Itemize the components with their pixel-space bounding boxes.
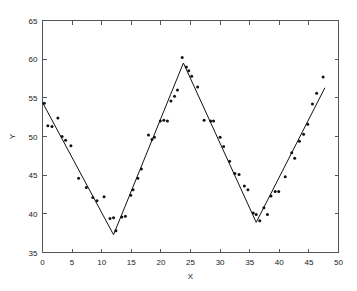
data-point — [238, 173, 241, 176]
data-point — [129, 194, 132, 197]
data-point — [293, 157, 296, 160]
data-point — [302, 133, 305, 136]
data-point — [228, 160, 231, 163]
x-tick-label: 30 — [216, 258, 225, 267]
data-point — [266, 213, 269, 216]
data-point — [136, 177, 139, 180]
x-tick-label: 20 — [156, 258, 165, 267]
data-point — [222, 145, 225, 148]
data-point — [108, 217, 111, 220]
data-point — [212, 120, 215, 123]
data-point — [112, 216, 115, 219]
data-point — [258, 219, 261, 222]
data-point — [262, 206, 265, 209]
data-point — [114, 229, 117, 232]
data-point — [315, 92, 318, 95]
data-point — [173, 95, 176, 98]
data-point — [243, 184, 246, 187]
fit-line — [43, 63, 325, 235]
y-tick-label: 60 — [29, 55, 38, 64]
data-point — [85, 186, 88, 189]
data-point — [50, 125, 53, 128]
data-point — [77, 177, 80, 180]
y-axis-ticks — [43, 21, 339, 253]
data-point — [185, 65, 188, 68]
data-point — [290, 151, 293, 154]
data-point — [147, 133, 150, 136]
data-point — [233, 172, 236, 175]
data-point — [95, 199, 98, 202]
data-point — [140, 167, 143, 170]
data-point — [311, 103, 314, 106]
scatter-plot: 05101520253035404550 35404550556065 X Y — [0, 0, 357, 291]
y-axis-tick-labels: 35404550556065 — [29, 17, 38, 258]
data-point — [151, 138, 154, 141]
data-point — [203, 119, 206, 122]
x-tick-label: 35 — [245, 258, 254, 267]
y-tick-label: 40 — [29, 210, 38, 219]
x-tick-label: 25 — [186, 258, 195, 267]
data-point — [56, 116, 59, 119]
y-tick-label: 45 — [29, 171, 38, 180]
data-point — [322, 75, 325, 78]
data-point — [277, 190, 280, 193]
x-tick-label: 40 — [275, 258, 284, 267]
data-point — [166, 120, 169, 123]
data-point — [69, 144, 72, 147]
data-point — [153, 136, 156, 139]
data-point — [298, 140, 301, 143]
data-point — [252, 212, 255, 215]
data-point — [162, 119, 165, 122]
x-tick-label: 5 — [70, 258, 75, 267]
y-tick-label: 35 — [29, 249, 38, 258]
data-point — [46, 124, 49, 127]
data-point — [176, 89, 179, 92]
data-point — [196, 86, 199, 89]
data-point — [169, 99, 172, 102]
data-point — [124, 215, 127, 218]
data-point — [103, 195, 106, 198]
chart-figure: 05101520253035404550 35404550556065 X Y — [0, 0, 357, 291]
data-points — [43, 56, 325, 232]
data-point — [284, 175, 287, 178]
data-point — [255, 213, 258, 216]
data-point — [91, 196, 94, 199]
data-point — [64, 139, 67, 142]
data-point — [219, 136, 222, 139]
x-axis-ticks — [43, 21, 339, 253]
data-point — [159, 120, 162, 123]
x-tick-label: 45 — [304, 258, 313, 267]
y-tick-label: 65 — [29, 17, 38, 26]
y-axis-title: Y — [8, 133, 17, 139]
data-point — [132, 188, 135, 191]
data-point — [246, 188, 249, 191]
y-tick-label: 50 — [29, 133, 38, 142]
data-point — [270, 195, 273, 198]
plot-frame — [43, 21, 339, 253]
y-tick-label: 55 — [29, 94, 38, 103]
data-point — [187, 69, 190, 72]
x-tick-label: 50 — [334, 258, 343, 267]
x-axis-tick-labels: 05101520253035404550 — [40, 258, 343, 267]
data-point — [209, 120, 212, 123]
data-point — [274, 190, 277, 193]
data-point — [120, 215, 123, 218]
data-point — [181, 56, 184, 59]
x-tick-label: 0 — [40, 258, 45, 267]
data-point — [61, 135, 64, 138]
x-axis-title: X — [188, 272, 194, 281]
x-tick-label: 15 — [127, 258, 136, 267]
data-point — [190, 75, 193, 78]
data-point — [306, 123, 309, 126]
x-tick-label: 10 — [97, 258, 106, 267]
data-point — [43, 102, 46, 105]
